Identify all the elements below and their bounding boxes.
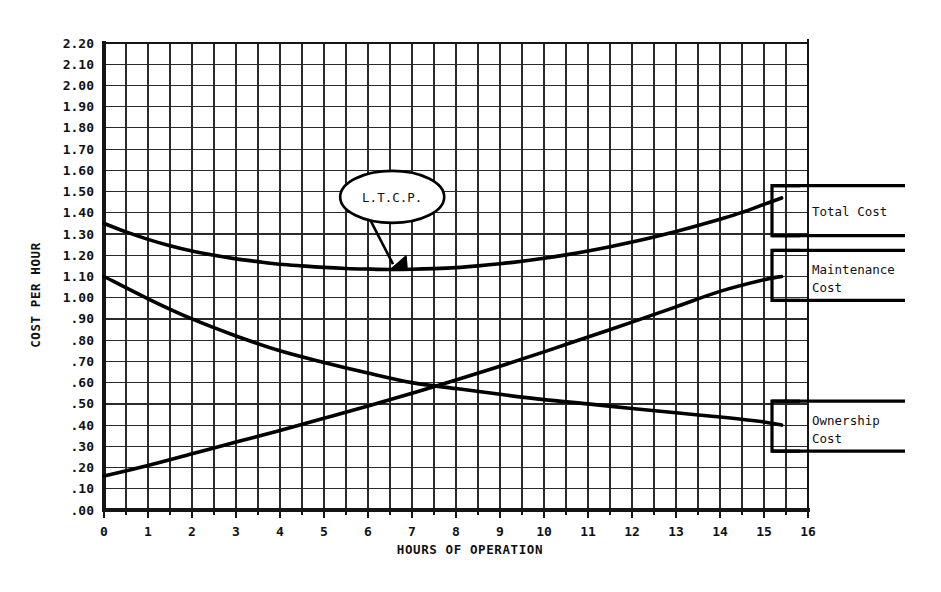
legend-label: Ownership xyxy=(812,413,880,428)
y-axis-title: COST PER HOUR xyxy=(28,242,43,348)
y-axis-tick-label: .30 xyxy=(71,439,95,454)
x-axis-tick-label: 8 xyxy=(452,524,460,539)
y-axis-tick-label: 2.10 xyxy=(63,57,94,72)
legend-label-line2: Cost xyxy=(812,431,842,446)
y-axis-tick-label: .70 xyxy=(71,354,95,369)
x-axis-title: HOURS OF OPERATION xyxy=(397,542,543,557)
y-axis-tick-label: 2.00 xyxy=(63,78,94,93)
x-axis-tick-label: 7 xyxy=(408,524,416,539)
y-axis-tick-label: .80 xyxy=(71,333,95,348)
x-axis-tick-label: 4 xyxy=(276,524,284,539)
x-axis-tick-label: 3 xyxy=(232,524,240,539)
x-axis-tick-label: 13 xyxy=(668,524,684,539)
legend-label-line2: Cost xyxy=(812,280,842,295)
y-axis-tick-label: 1.90 xyxy=(63,99,94,114)
x-axis-tick-label: 6 xyxy=(364,524,372,539)
y-axis-tick-label: 2.20 xyxy=(63,36,94,51)
x-axis-tick-label: 15 xyxy=(756,524,772,539)
x-axis-tick-label: 9 xyxy=(496,524,504,539)
x-axis-tick-label: 14 xyxy=(712,524,728,539)
y-axis-tick-label: 1.60 xyxy=(63,163,94,178)
y-axis-tick-label: 1.00 xyxy=(63,290,94,305)
y-axis-tick-label: .10 xyxy=(71,481,95,496)
x-axis-tick-label: 10 xyxy=(536,524,552,539)
y-axis-tick-label: 1.50 xyxy=(63,184,94,199)
x-axis-tick-label: 12 xyxy=(624,524,640,539)
chart-page: .00.10.20.30.40.50.60.70.80.901.001.101.… xyxy=(0,0,941,592)
y-axis-tick-label: .90 xyxy=(71,311,95,326)
legend-label: Maintenance xyxy=(812,262,895,277)
y-axis-tick-label: 1.30 xyxy=(63,227,94,242)
x-axis-tick-label: 5 xyxy=(320,524,328,539)
cost-per-hour-line-chart: .00.10.20.30.40.50.60.70.80.901.001.101.… xyxy=(0,0,941,592)
y-axis-tick-label: .00 xyxy=(71,503,95,518)
y-axis-tick-label: 1.80 xyxy=(63,120,94,135)
y-axis-tick-label: .40 xyxy=(71,418,95,433)
callout-label-text: L.T.C.P. xyxy=(362,190,422,205)
x-axis-tick-label: 0 xyxy=(100,524,108,539)
y-axis-tick-label: 1.40 xyxy=(63,205,94,220)
y-axis-tick-label: .60 xyxy=(71,375,95,390)
x-axis-tick-label: 16 xyxy=(800,524,816,539)
x-axis-tick-label: 2 xyxy=(188,524,196,539)
x-axis-tick-label: 11 xyxy=(580,524,596,539)
y-axis-tick-label: .20 xyxy=(71,460,95,475)
y-axis-tick-label: 1.70 xyxy=(63,142,94,157)
y-axis-tick-label: 1.20 xyxy=(63,248,94,263)
y-axis-tick-label: .50 xyxy=(71,396,95,411)
y-axis-tick-label: 1.10 xyxy=(63,269,94,284)
x-axis-tick-label: 1 xyxy=(144,524,152,539)
legend-label: Total Cost xyxy=(812,204,887,219)
